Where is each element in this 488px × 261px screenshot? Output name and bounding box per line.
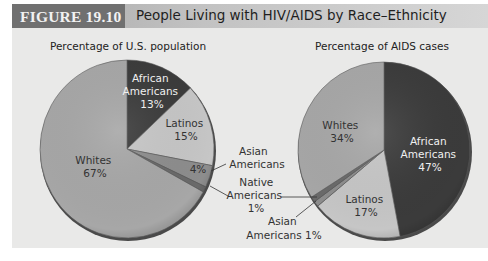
left-chart-title: Percentage of U.S. population <box>50 40 206 52</box>
callout-asian-right: Asian Americans 1% <box>246 215 321 241</box>
callout-native-shared: Native Americans 1% <box>227 176 286 214</box>
pie-charts: Percentage of U.S. population African Am… <box>0 0 488 261</box>
leader-native-left <box>210 186 228 196</box>
callout-asian-left: Asian Americans <box>229 145 284 170</box>
right-chart-title: Percentage of AIDS cases <box>315 40 449 52</box>
left-label-asian-pct: 4% <box>190 163 207 175</box>
leader-asian-right <box>296 201 316 217</box>
